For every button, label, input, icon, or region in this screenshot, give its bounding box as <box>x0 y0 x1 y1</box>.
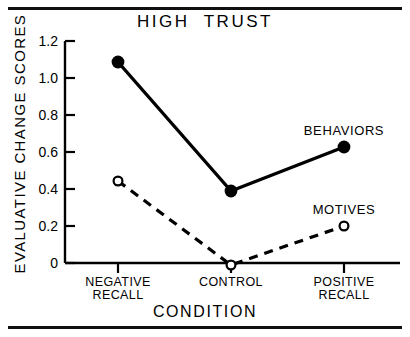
x-tick-label-control: CONTROL <box>199 276 263 289</box>
behaviors-marker <box>225 185 238 198</box>
y-tick-label: 1.2 <box>39 33 58 49</box>
y-tick-label: 0 <box>50 255 58 271</box>
y-tick-label: 0.2 <box>39 218 58 234</box>
y-tick-label: 0.8 <box>39 107 58 123</box>
behaviors-marker <box>338 141 351 154</box>
x-tick-label-positive-recall: POSITIVE RECALL <box>314 276 375 302</box>
y-tick-label: 1.0 <box>39 70 58 86</box>
motives-marker <box>227 261 236 270</box>
y-tick-marks <box>65 41 75 263</box>
motives-marker <box>340 222 349 231</box>
behaviors-annotation: BEHAVIORS <box>304 123 384 138</box>
behaviors-marker <box>112 56 125 69</box>
figure: HIGH TRUST EVALUATIVE CHANGE SCORES COND… <box>0 0 410 337</box>
y-tick-label: 0.6 <box>39 144 58 160</box>
axes <box>65 41 400 263</box>
y-tick-label: 0.4 <box>39 181 58 197</box>
x-tick-label-negative-recall: NEGATIVE RECALL <box>85 276 150 302</box>
motives-annotation: MOTIVES <box>313 202 376 217</box>
motives-marker <box>114 177 123 186</box>
